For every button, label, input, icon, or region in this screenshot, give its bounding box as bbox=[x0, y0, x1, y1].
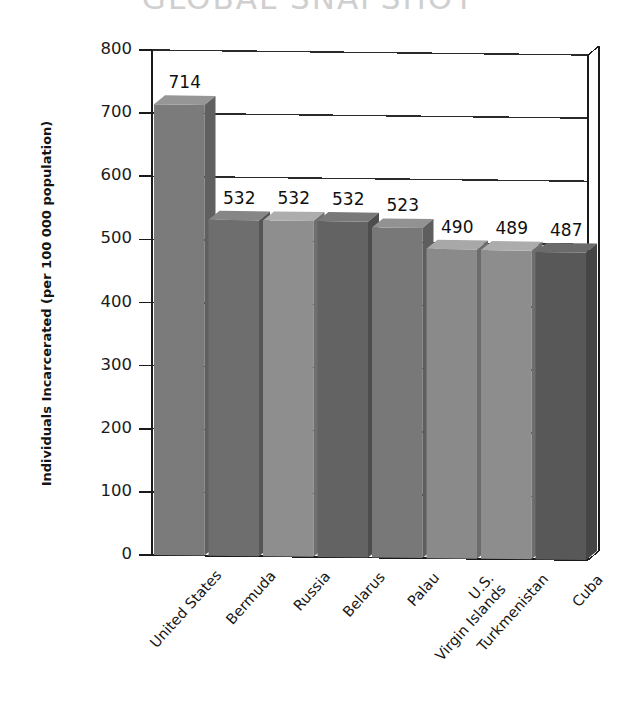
x-category-label: Russia bbox=[290, 568, 333, 614]
x-category-label: United States bbox=[147, 567, 225, 651]
x-category-label-line: Russia bbox=[290, 568, 333, 613]
x-category-label: Cuba bbox=[569, 571, 606, 610]
x-category-label-line: Cuba bbox=[569, 571, 606, 610]
x-category-label: Belarus bbox=[340, 569, 389, 620]
x-axis-category-labels: United StatesBermudaRussiaBelarusPalauU.… bbox=[0, 0, 617, 721]
x-category-label-line: Belarus bbox=[340, 569, 388, 620]
x-category-label: Bermuda bbox=[223, 568, 279, 628]
x-category-label: Palau bbox=[404, 570, 442, 610]
bar-chart-figure: GLOBAL SNAPSHOT Individuals Incarcerated… bbox=[0, 0, 617, 721]
x-category-label-line: Bermuda bbox=[223, 568, 279, 628]
x-category-label-line: United States bbox=[147, 567, 225, 651]
x-category-label-line: Palau bbox=[404, 570, 442, 610]
